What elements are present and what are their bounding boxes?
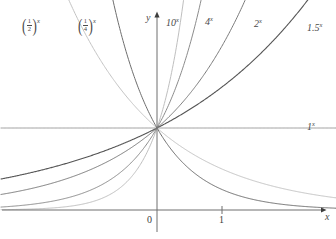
curve-label-one: 1x [307,121,315,132]
exponent: x [320,21,323,28]
left-paren: ( [78,16,82,35]
y-axis-label-text: y [146,12,150,23]
exponent: x [176,16,179,23]
x-tick-label-1: 1 [219,215,224,225]
curve-1-4-x [85,0,336,208]
x-axis-label: x [325,212,329,222]
y-axis-label: y [146,13,150,23]
right-paren: ) [89,16,93,35]
curve-label-one-point-five: 1.5x [307,22,322,33]
curve-label-one-half: (12)x [22,18,40,33]
exponent: x [37,17,40,24]
origin-label-text: 0 [147,214,152,225]
base: 10 [166,17,176,28]
exponent: x [312,120,315,127]
curve-label-two: 2x [254,18,262,29]
exponent: x [259,17,262,24]
left-paren: ( [22,16,26,35]
curve-label-four: 4x [205,16,213,27]
fraction-denominator: 2 [27,26,32,33]
exponent: x [93,17,96,24]
curve-group [1,0,336,210]
base: 1.5 [307,22,320,33]
plot-canvas [0,0,336,239]
origin-label: 0 [147,215,152,225]
right-paren: ) [33,16,37,35]
curve-1-2-x [11,0,335,198]
exponential-functions-figure: (12)x (14)x y 10x 4x 2x 1.5x 1x 0 1 x [0,0,336,239]
fraction-denominator: 4 [83,26,88,33]
curve-label-one-quarter: (14)x [78,18,96,33]
x-tick-label-text: 1 [219,214,224,225]
curve-label-ten: 10x [166,17,179,28]
x-axis-label-text: x [325,211,329,222]
exponent: x [210,15,213,22]
